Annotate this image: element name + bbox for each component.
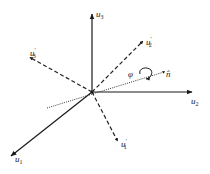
axis-u1-line	[11, 92, 92, 156]
label-u1-prime: u′1	[121, 138, 128, 150]
label-u1: u1	[15, 154, 23, 165]
axis-u2-prime-line	[92, 42, 142, 92]
label-u3: u3	[96, 9, 104, 20]
axis-u3-prime-line	[31, 58, 92, 92]
origin-point	[90, 90, 93, 93]
label-u3-prime: u′3	[30, 47, 37, 59]
rotation-axis-n-line	[47, 72, 164, 108]
label-u2: u2	[191, 96, 199, 107]
axis-u1-prime-line	[92, 92, 117, 140]
label-phi: φ	[128, 69, 133, 79]
rotation-curl-arrow-icon	[140, 68, 152, 79]
label-u2-prime: u′2	[146, 36, 153, 48]
label-n-hat: n̂	[166, 69, 171, 79]
rotation-diagram: u3 u2 u1 u′1 u′2 u′3 n̂ φ	[0, 0, 210, 174]
